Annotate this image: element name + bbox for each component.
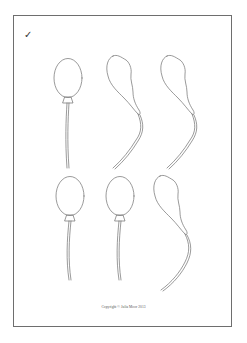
- balloon-deflated-r1c3: [161, 55, 197, 169]
- balloon-deflated-r1c2: [107, 55, 143, 169]
- balloon-deflated-r2c3: [154, 175, 191, 291]
- copyright-notice: Copyright © Julia Moor 2013: [0, 305, 247, 309]
- balloon-inflated-r1c1: [54, 59, 82, 169]
- balloon-inflated-r2c2: [106, 177, 134, 281]
- balloon-illustrations: [0, 0, 247, 343]
- balloon-inflated-r2c1: [56, 177, 84, 281]
